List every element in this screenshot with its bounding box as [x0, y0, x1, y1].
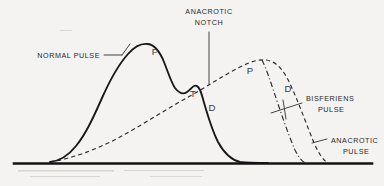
leader-bisferiens-tick [283, 100, 286, 119]
label-bisferiens-pulse-line2: PULSE [318, 105, 344, 114]
curve-anacrotic-pulse [50, 60, 328, 163]
label-anacrotic-notch-line1: ANACROTIC [185, 7, 232, 16]
marker-normal-dicrotic: D [208, 102, 215, 113]
label-bisferiens-pulse-line1: BISFERIENS [306, 94, 354, 103]
marker-normal-tidal: T [190, 88, 196, 99]
curve-normal-pulse [50, 44, 268, 163]
label-normal-pulse: NORMAL PULSE [37, 51, 100, 60]
label-anacrotic-notch-line2: NOTCH [195, 18, 223, 27]
leader-bisferiens-pulse [271, 103, 302, 113]
pulse-waveform-diagram: ANACROTIC NOTCH NORMAL PULSE BISFERIENS … [0, 0, 384, 186]
leader-anacrotic-pulse [312, 139, 327, 143]
marker-normal-percussion: P [152, 46, 159, 57]
marker-abnormal-percussion: P [247, 65, 254, 76]
label-anacrotic-pulse-line2: PULSE [343, 147, 369, 156]
marker-abnormal-dicrotic: D [284, 83, 291, 94]
label-anacrotic-pulse-line1: ANACROTIC [331, 136, 378, 145]
curve-bisferiens-pulse [262, 60, 305, 163]
